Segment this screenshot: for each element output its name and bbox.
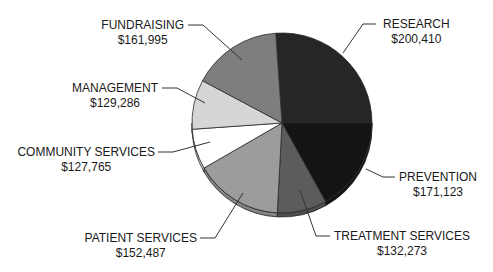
slice-name: TREATMENT SERVICES bbox=[334, 229, 470, 244]
label-prevention: PREVENTION$171,123 bbox=[399, 170, 477, 200]
slice-value: $152,487 bbox=[85, 246, 197, 261]
slice-name: COMMUNITY SERVICES bbox=[17, 145, 155, 160]
slice-research bbox=[276, 33, 372, 123]
label-research: RESEARCH$200,410 bbox=[383, 17, 450, 47]
slice-value: $132,273 bbox=[334, 244, 470, 259]
label-patient-services: PATIENT SERVICES$152,487 bbox=[85, 231, 197, 261]
slice-value: $129,286 bbox=[72, 96, 158, 111]
pie-slices bbox=[192, 33, 372, 213]
slice-name: RESEARCH bbox=[383, 17, 450, 32]
label-treatment-services: TREATMENT SERVICES$132,273 bbox=[334, 229, 470, 259]
leader-line-research bbox=[343, 24, 376, 53]
label-fundraising: FUNDRAISING$161,995 bbox=[101, 18, 184, 48]
leader-line-prevention bbox=[366, 169, 395, 177]
slice-value: $127,765 bbox=[17, 160, 155, 175]
label-management: MANAGEMENT$129,286 bbox=[72, 81, 158, 111]
slice-name: MANAGEMENT bbox=[72, 81, 158, 96]
label-community-services: COMMUNITY SERVICES$127,765 bbox=[17, 145, 155, 175]
slice-value: $171,123 bbox=[399, 185, 477, 200]
slice-name: FUNDRAISING bbox=[101, 18, 184, 33]
slice-value: $200,410 bbox=[383, 32, 450, 47]
slice-value: $161,995 bbox=[101, 33, 184, 48]
slice-name: PREVENTION bbox=[399, 170, 477, 185]
slice-name: PATIENT SERVICES bbox=[85, 231, 197, 246]
